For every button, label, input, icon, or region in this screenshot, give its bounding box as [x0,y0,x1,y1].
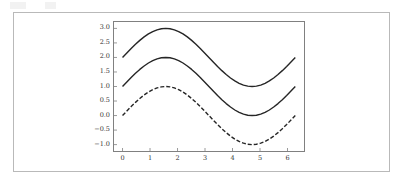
y-tick-label: 0.5 [100,97,110,104]
figure-root: −1.0−0.50.00.51.01.52.02.53.0 0123456 [0,0,404,186]
x-tick-label: 4 [230,155,234,162]
y-tick-label: 3.0 [100,24,110,31]
axis-tick-marks [114,28,288,151]
y-tick-label: 1.0 [100,82,110,89]
x-tick-label: 6 [285,155,289,162]
plot-lines-svg [114,22,304,151]
data-series-layer [123,28,296,144]
plot-axes-frame [113,21,305,152]
y-tick-label: −1.0 [94,140,110,147]
page-artifact-mark [10,2,26,9]
y-tick-label: −0.5 [94,126,110,133]
y-tick-label: 2.0 [100,53,110,60]
y-axis-tick-labels: −1.0−0.50.00.51.01.52.02.53.0 [88,21,110,152]
x-tick-label: 5 [258,155,262,162]
x-tick-label: 0 [120,155,124,162]
x-axis-tick-labels: 0123456 [113,155,305,167]
x-tick-label: 1 [148,155,152,162]
data-series-line-2 [123,87,296,145]
data-series-line-1 [123,57,296,115]
x-tick-label: 3 [203,155,207,162]
y-tick-label: 2.5 [100,39,110,46]
x-tick-label: 2 [175,155,179,162]
data-series-line-0 [123,28,296,86]
y-tick-label: 0.0 [100,111,110,118]
page-artifact-mark [45,2,56,9]
y-tick-label: 1.5 [100,68,110,75]
